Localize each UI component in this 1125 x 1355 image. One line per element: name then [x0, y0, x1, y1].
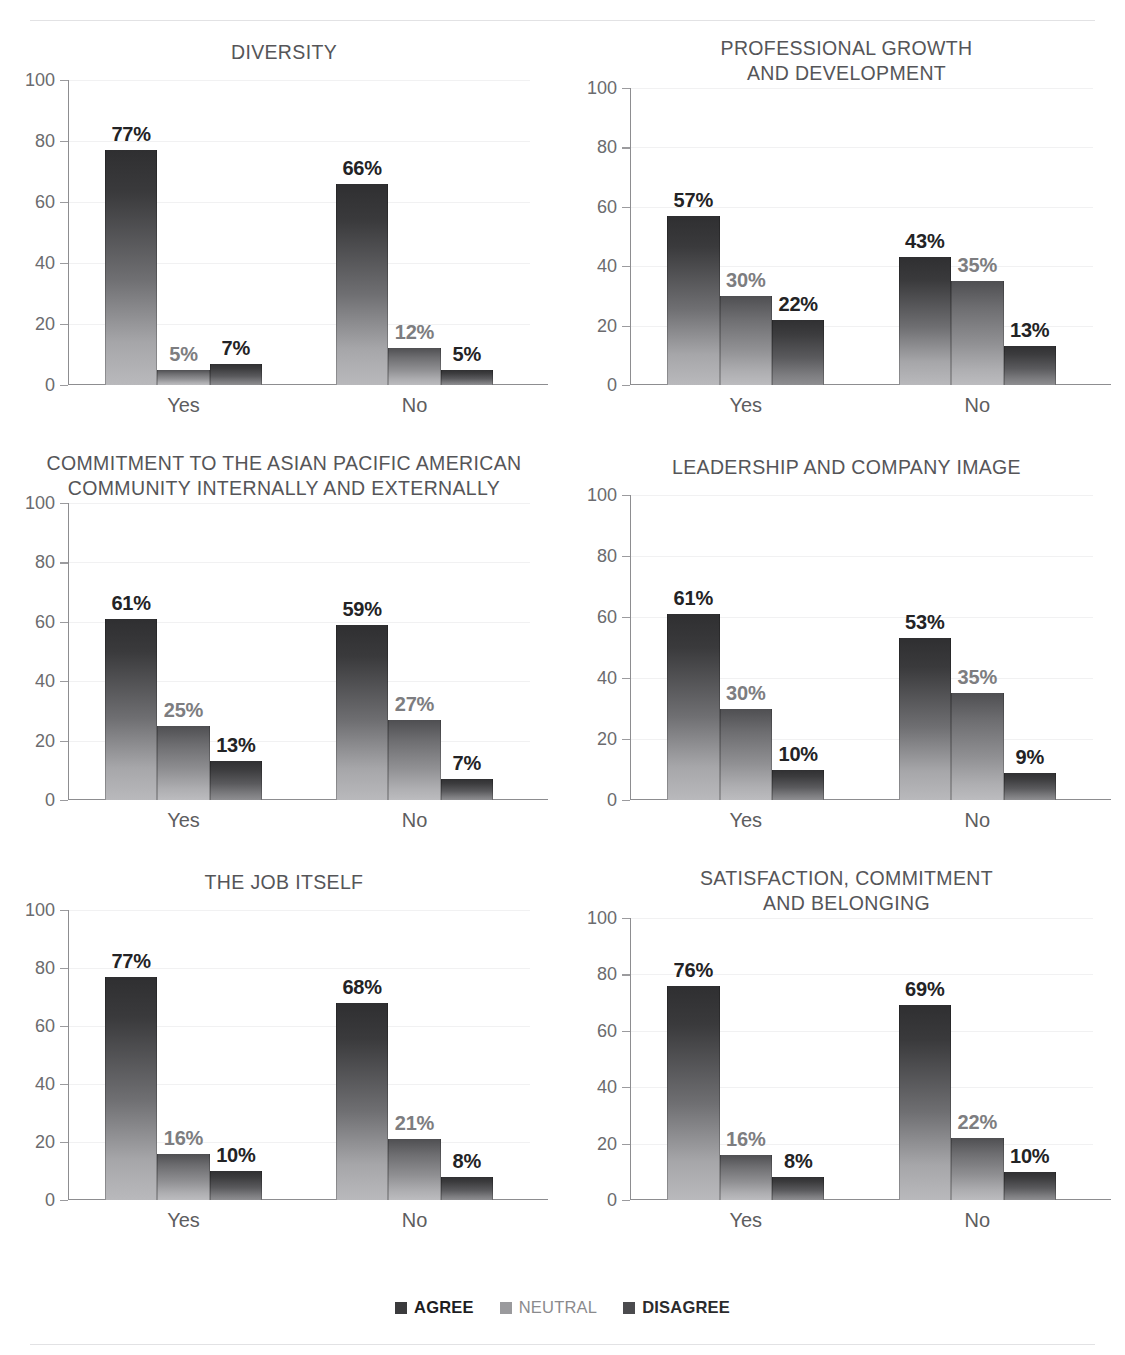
y-axis-label: 20 [35, 730, 55, 751]
bars-container: 43%35%13% [862, 88, 1094, 385]
bar-neutral[interactable] [157, 1154, 209, 1200]
bar-slot: 10% [210, 910, 262, 1200]
bar-groups: 61%25%13%Yes59%27%7%No [68, 503, 530, 800]
bar-group-no: 59%27%7%No [299, 503, 530, 800]
bar-disagree[interactable] [210, 761, 262, 800]
bar-agree[interactable] [336, 184, 388, 385]
bar-disagree[interactable] [1004, 346, 1056, 385]
bar-value-label: 22% [779, 293, 818, 316]
bar-value-label: 30% [726, 682, 765, 705]
x-axis-line [630, 1199, 1111, 1200]
bar-slot: 12% [388, 80, 440, 385]
bar-neutral[interactable] [720, 1155, 772, 1200]
bar-neutral[interactable] [388, 1139, 440, 1200]
bar-neutral[interactable] [157, 726, 209, 800]
bars-container: 69%22%10% [862, 918, 1094, 1200]
bar-value-label: 8% [784, 1150, 813, 1173]
bar-agree[interactable] [899, 257, 951, 385]
y-gridline [630, 617, 1093, 618]
bar-agree[interactable] [667, 986, 719, 1200]
y-axis-label: 40 [35, 1074, 55, 1095]
bar-agree[interactable] [105, 150, 157, 385]
bar-agree[interactable] [899, 1005, 951, 1200]
bar-value-label: 21% [395, 1112, 434, 1135]
plot-inner: 02040608010077%16%10%Yes68%21%8%No [68, 910, 530, 1200]
bar-disagree[interactable] [1004, 773, 1056, 800]
y-gridline [630, 739, 1093, 740]
y-axis-label: 80 [597, 964, 617, 985]
bars-container: 68%21%8% [299, 910, 530, 1200]
y-axis-tick [622, 326, 630, 327]
bar-agree[interactable] [105, 619, 157, 800]
y-axis-tick [60, 1200, 68, 1201]
y-axis-tick [622, 207, 630, 208]
bar-value-label: 13% [1010, 319, 1049, 342]
x-axis-category-label: No [862, 1209, 1094, 1232]
y-axis-tick [622, 1031, 630, 1032]
plot-area: 02040608010077%5%7%Yes66%12%5%No [68, 80, 530, 385]
bar-disagree[interactable] [772, 1177, 824, 1200]
y-axis-label: 60 [35, 611, 55, 632]
y-gridline [630, 1087, 1093, 1088]
bar-group-yes: 77%5%7%Yes [68, 80, 299, 385]
y-gridline [68, 141, 530, 142]
y-axis-label: 20 [597, 729, 617, 750]
y-axis-tick [60, 263, 68, 264]
bar-agree[interactable] [336, 1003, 388, 1200]
bar-disagree[interactable] [210, 364, 262, 385]
x-axis-category-label: No [299, 1209, 530, 1232]
bar-slot: 76% [667, 918, 719, 1200]
y-axis-tick [622, 918, 630, 919]
y-axis-line [68, 910, 69, 1200]
bar-neutral[interactable] [720, 296, 772, 385]
bar-slot: 61% [105, 503, 157, 800]
chart-panel: THE JOB ITSELF02040608010077%16%10%Yes68… [0, 858, 562, 1258]
legend-item-neutral[interactable]: NEUTRAL [500, 1298, 597, 1317]
bar-slot: 5% [157, 80, 209, 385]
cut-off-header-text [0, 0, 1125, 6]
bar-neutral[interactable] [720, 709, 772, 801]
bar-neutral[interactable] [951, 693, 1003, 800]
bar-agree[interactable] [667, 216, 719, 385]
y-axis-label: 0 [45, 1190, 55, 1211]
y-axis-tick [622, 147, 630, 148]
bar-agree[interactable] [336, 625, 388, 800]
chart-title: SATISFACTION, COMMITMENT AND BELONGING [582, 866, 1111, 916]
plot-area: 02040608010061%30%10%Yes53%35%9%No [630, 495, 1093, 800]
bar-disagree[interactable] [441, 1177, 493, 1200]
bar-value-label: 7% [222, 337, 251, 360]
y-axis-tick [60, 741, 68, 742]
y-axis-tick [622, 974, 630, 975]
bar-agree[interactable] [667, 614, 719, 800]
y-gridline [630, 1144, 1093, 1145]
bar-agree[interactable] [105, 977, 157, 1200]
x-axis-category-label: No [299, 809, 530, 832]
y-gridline [68, 80, 530, 81]
bar-neutral[interactable] [388, 348, 440, 385]
x-axis-category-label: Yes [630, 809, 862, 832]
bar-slot: 21% [388, 910, 440, 1200]
bar-agree[interactable] [899, 638, 951, 800]
bars-container: 61%25%13% [68, 503, 299, 800]
bar-disagree[interactable] [1004, 1172, 1056, 1200]
bar-neutral[interactable] [951, 281, 1003, 385]
bar-group-no: 68%21%8%No [299, 910, 530, 1200]
y-axis-label: 40 [597, 1077, 617, 1098]
bar-disagree[interactable] [441, 779, 493, 800]
bar-disagree[interactable] [772, 770, 824, 801]
y-axis-label: 80 [35, 958, 55, 979]
chart-title: THE JOB ITSELF [20, 870, 548, 895]
legend-item-disagree[interactable]: DISAGREE [623, 1298, 730, 1317]
bar-value-label: 66% [342, 157, 381, 180]
bar-value-label: 10% [1010, 1145, 1049, 1168]
legend-item-agree[interactable]: AGREE [395, 1298, 474, 1317]
chart-panel: DIVERSITY02040608010077%5%7%Yes66%12%5%N… [0, 28, 562, 443]
bar-slot: 35% [951, 88, 1003, 385]
y-gridline [68, 681, 530, 682]
bar-disagree[interactable] [210, 1171, 262, 1200]
y-gridline [630, 207, 1093, 208]
bar-neutral[interactable] [388, 720, 440, 800]
y-gridline [68, 324, 530, 325]
bar-neutral[interactable] [951, 1138, 1003, 1200]
bar-disagree[interactable] [772, 320, 824, 385]
